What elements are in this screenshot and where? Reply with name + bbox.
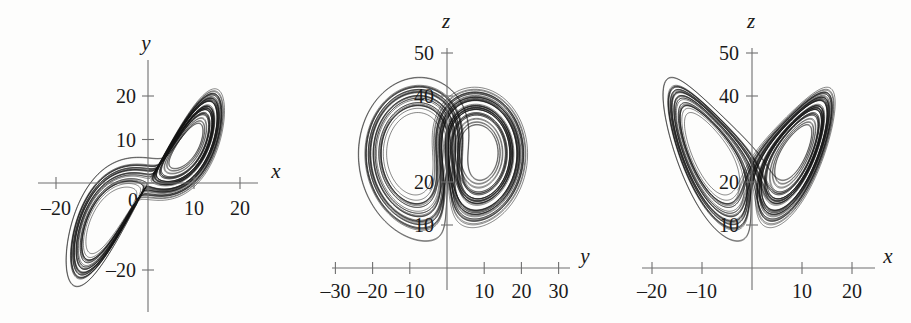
y-tick-label: 0	[128, 189, 138, 211]
lorenz-orbit-curve	[663, 77, 835, 241]
y-tick-label: 50	[719, 42, 739, 64]
panel-xy: –20102020100–20xy	[0, 0, 300, 323]
y-tick-label: 10	[719, 214, 739, 236]
x-tick-label: 20	[230, 197, 250, 219]
panel-xz-plot: –20–10102050402010xz	[600, 0, 911, 323]
lorenz-orbit-curve	[358, 77, 527, 241]
x-tick-label: 10	[792, 280, 812, 302]
y-tick-label: –20	[105, 259, 136, 281]
x-tick-label: 30	[549, 280, 569, 302]
x-tick-label: –30	[319, 280, 350, 302]
horizontal-axis-label: y	[578, 244, 590, 268]
y-tick-label: 20	[719, 171, 739, 193]
y-tick-label: 50	[414, 42, 434, 64]
horizontal-axis-label: x	[270, 159, 281, 183]
vertical-axis-label: y	[139, 31, 151, 55]
panel-xy-plot: –20102020100–20xy	[0, 0, 300, 323]
x-tick-label: –10	[394, 280, 425, 302]
x-tick-label: –10	[686, 280, 717, 302]
y-tick-label: 10	[414, 214, 434, 236]
horizontal-axis-label: x	[882, 244, 893, 268]
vertical-axis-label: z	[746, 9, 755, 33]
panel-xz: –20–10102050402010xz	[600, 0, 911, 323]
x-tick-label: 20	[511, 280, 531, 302]
x-tick-label: 10	[184, 197, 204, 219]
y-tick-label: 40	[719, 85, 739, 107]
y-tick-label: 20	[116, 85, 136, 107]
y-tick-label: 10	[116, 129, 136, 151]
panel-yz: –30–20–1010203050402010yz	[300, 0, 600, 323]
vertical-axis-label: z	[441, 9, 450, 33]
y-tick-label: 20	[414, 171, 434, 193]
x-tick-label: –20	[636, 280, 667, 302]
x-tick-label: –20	[357, 280, 388, 302]
x-tick-label: 20	[842, 280, 862, 302]
lorenz-orbit-curve	[66, 89, 225, 287]
y-tick-label: 40	[414, 85, 434, 107]
x-tick-label: 10	[474, 280, 494, 302]
panel-yz-plot: –30–20–1010203050402010yz	[300, 0, 600, 323]
lorenz-attractor-figure: –20102020100–20xy–30–20–1010203050402010…	[0, 0, 911, 323]
x-tick-label: –20	[40, 197, 71, 219]
